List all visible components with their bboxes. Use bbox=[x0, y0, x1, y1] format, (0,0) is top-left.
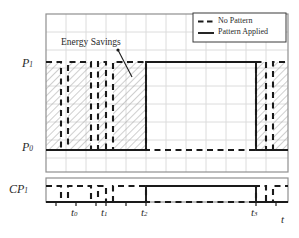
control-panel-frame bbox=[46, 178, 288, 202]
axis-label-p0: P0 bbox=[22, 141, 33, 153]
x-tick-label-t1: t1 bbox=[101, 207, 107, 218]
legend-label-no-pattern: No Pattern bbox=[218, 17, 252, 25]
legend-label-pattern-applied: Pattern Applied bbox=[218, 28, 268, 36]
x-tick-label-t0: t0 bbox=[71, 207, 77, 218]
x-tick-label-t3: t3 bbox=[251, 207, 257, 218]
energy-savings-shading bbox=[46, 62, 288, 150]
axis-label-p1: P1 bbox=[22, 57, 33, 69]
energy-savings-annotation: Energy Savings bbox=[61, 38, 121, 48]
control-pattern-applied-trace bbox=[46, 186, 288, 202]
axis-label-cp1: CP1 bbox=[9, 183, 28, 195]
control-no-pattern-trace bbox=[46, 186, 288, 202]
energy-savings-figure: P1 P0 CP1 t0 t1 t2 t3 t Energy Savings N… bbox=[0, 0, 299, 238]
x-axis-label: t bbox=[281, 214, 284, 225]
x-tick-label-t2: t2 bbox=[141, 207, 147, 218]
